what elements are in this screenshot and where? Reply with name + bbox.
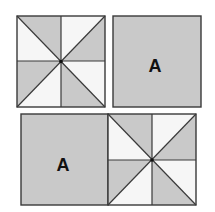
tile-label: A (57, 155, 70, 175)
pinwheel-tile-top-left (17, 16, 105, 107)
plain-tile-bottom-left: A (21, 114, 108, 205)
plain-tile-top-right: A (113, 16, 201, 107)
pinwheel-tile-bottom-right (108, 114, 196, 205)
tile-label: A (149, 56, 162, 76)
tile-diagram: A A (0, 0, 215, 212)
